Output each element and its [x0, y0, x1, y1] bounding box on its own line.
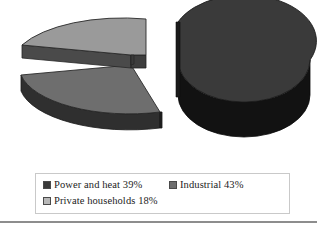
slice-cutface-industrial — [176, 22, 180, 97]
pie-chart-svg — [0, 0, 317, 165]
legend-row: Private households 18% — [36, 193, 289, 209]
legend-label-power-and-heat: Power and heat 39% — [54, 179, 142, 191]
legend-item-private-households[interactable]: Private households 18% — [43, 195, 158, 207]
legend-label-industrial: Industrial 43% — [180, 179, 244, 191]
slice-hub-seam — [131, 55, 134, 65]
pie-chart-plot-area — [0, 0, 317, 165]
legend-swatch-private-households-icon — [43, 197, 51, 205]
legend-item-industrial[interactable]: Industrial 43% — [169, 179, 244, 191]
legend-swatch-industrial-icon — [169, 181, 177, 189]
pie-chart-figure: Power and heat 39% Industrial 43% Privat… — [0, 0, 317, 228]
slice-top-industrial — [178, 0, 316, 102]
legend-row: Power and heat 39% Industrial 43% — [36, 177, 289, 193]
chart-legend: Power and heat 39% Industrial 43% Privat… — [35, 173, 290, 214]
legend-item-power-and-heat[interactable]: Power and heat 39% — [43, 179, 142, 191]
legend-swatch-power-and-heat-icon — [43, 181, 51, 189]
bottom-divider-rule — [0, 221, 317, 223]
legend-label-private-households: Private households 18% — [54, 195, 158, 207]
slice-cutface-power-and-heat — [160, 112, 162, 128]
